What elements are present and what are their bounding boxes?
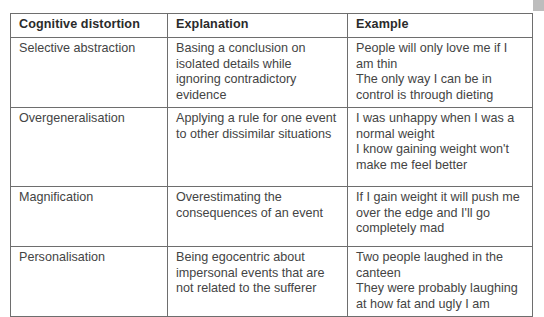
- example-line: Two people laughed in the canteen: [356, 250, 524, 281]
- example-line: People will only love me if I am thin: [356, 41, 524, 72]
- table-header-row: Cognitive distortion Explanation Example: [11, 14, 533, 38]
- example-cell: I was unhappy when I was a normal weight…: [348, 108, 533, 187]
- example-line: If I gain weight it will push me over th…: [356, 190, 524, 237]
- distortion-cell: Magnification: [11, 187, 168, 247]
- distortion-cell: Selective abstraction: [11, 38, 168, 108]
- example-line: The only way I can be in control is thro…: [356, 72, 524, 103]
- distortion-cell: Overgeneralisation: [11, 108, 168, 187]
- header-cognitive-distortion: Cognitive distortion: [11, 14, 168, 38]
- table-row: Overgeneralisation Applying a rule for o…: [11, 108, 533, 187]
- explanation-cell: Basing a conclusion on isolated details …: [168, 38, 348, 108]
- distortion-cell: Personalisation: [11, 247, 168, 317]
- example-cell: People will only love me if I am thin Th…: [348, 38, 533, 108]
- example-line: They were probably laughing at how fat a…: [356, 281, 524, 312]
- explanation-cell: Applying a rule for one event to other d…: [168, 108, 348, 187]
- header-example: Example: [348, 14, 533, 38]
- table-row: Selective abstraction Basing a conclusio…: [11, 38, 533, 108]
- explanation-cell: Overestimating the consequences of an ev…: [168, 187, 348, 247]
- table-row: Magnification Overestimating the consequ…: [11, 187, 533, 247]
- cognitive-distortions-table: Cognitive distortion Explanation Example…: [10, 13, 533, 317]
- example-cell: Two people laughed in the canteen They w…: [348, 247, 533, 317]
- explanation-cell: Being egocentric about impersonal events…: [168, 247, 348, 317]
- example-line: I was unhappy when I was a normal weight: [356, 111, 524, 142]
- table-row: Personalisation Being egocentric about i…: [11, 247, 533, 317]
- example-line: I know gaining weight won't make me feel…: [356, 142, 524, 173]
- example-cell: If I gain weight it will push me over th…: [348, 187, 533, 247]
- header-explanation: Explanation: [168, 14, 348, 38]
- page-edge-tab: [533, 0, 544, 11]
